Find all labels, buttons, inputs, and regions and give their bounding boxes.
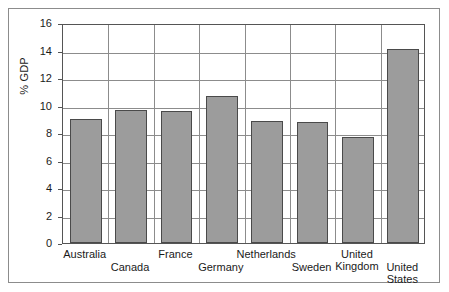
- y-axis-tick-label: 10: [26, 101, 52, 112]
- x-axis-tick-label: Canada: [90, 261, 170, 273]
- bar: [251, 121, 283, 243]
- x-axis-tick-label-line: France: [135, 248, 215, 260]
- y-axis-tick-mark: [58, 244, 62, 245]
- bar: [387, 49, 419, 243]
- y-axis-tick-label: 14: [26, 46, 52, 57]
- bar: [342, 137, 374, 243]
- x-axis-tick-label: Netherlands: [226, 248, 306, 260]
- bar: [115, 110, 147, 243]
- y-axis-tick-label: 8: [26, 128, 52, 139]
- x-axis-tick-label-line: Australia: [45, 248, 125, 260]
- y-axis-tick-label: 6: [26, 156, 52, 167]
- bar: [297, 122, 329, 243]
- x-axis-tick-label-line: United: [317, 248, 397, 260]
- y-axis-tick-label: 2: [26, 211, 52, 222]
- x-axis-tick-label-line: States: [362, 273, 442, 285]
- x-axis-tick-label: Australia: [45, 248, 125, 260]
- bars-layer: [63, 25, 424, 243]
- x-axis-tick-label-line: United: [362, 261, 442, 273]
- bar: [206, 96, 238, 243]
- x-axis-tick-label-line: Germany: [181, 261, 261, 273]
- x-axis-tick-label: France: [135, 248, 215, 260]
- x-axis-tick-label: Germany: [181, 261, 261, 273]
- plot-area: [62, 24, 425, 244]
- x-axis-tick-label-line: Netherlands: [226, 248, 306, 260]
- y-axis-tick-label: 12: [26, 73, 52, 84]
- y-axis-tick-label: 16: [26, 18, 52, 29]
- bar: [161, 111, 193, 243]
- chart-figure: % GDP 0246810121416 AustraliaCanadaFranc…: [0, 0, 449, 292]
- y-axis-tick-label: 4: [26, 183, 52, 194]
- bar: [70, 119, 102, 243]
- x-axis-tick-label: UnitedStates: [362, 261, 442, 285]
- x-axis-tick-label-line: Canada: [90, 261, 170, 273]
